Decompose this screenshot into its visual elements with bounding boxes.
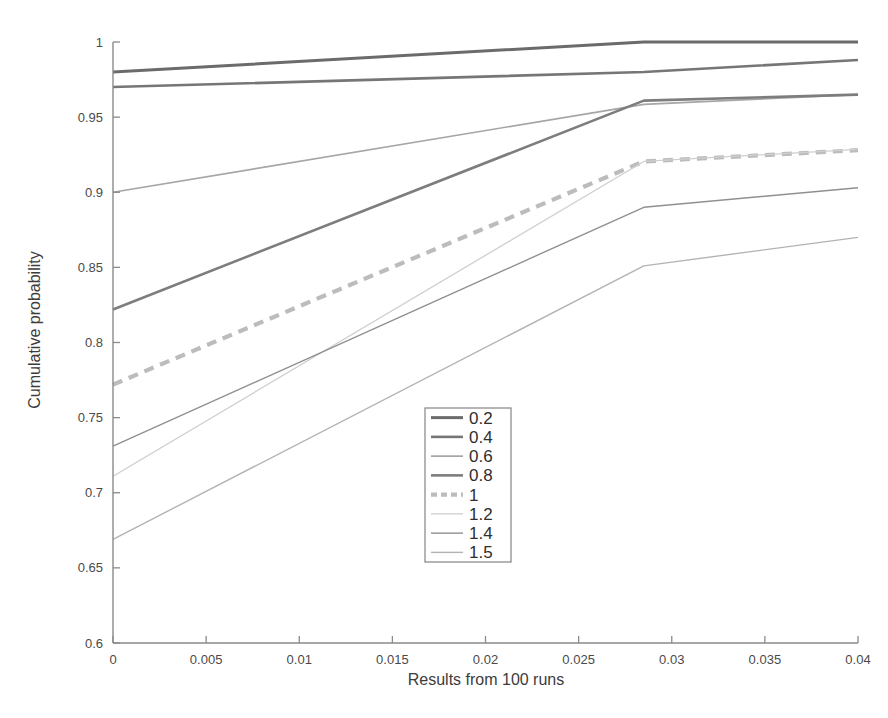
y-tick-label: 0.65	[78, 560, 103, 575]
legend-label-0.8: 0.8	[469, 466, 493, 485]
y-tick-label: 0.6	[85, 636, 103, 651]
series-line-0.4	[113, 60, 858, 87]
x-tick-label: 0.015	[376, 652, 409, 667]
series-line-0.8	[113, 95, 858, 310]
legend-label-1.2: 1.2	[469, 505, 493, 524]
x-tick-label: 0	[109, 652, 116, 667]
x-tick-label: 0.005	[190, 652, 223, 667]
legend-label-1: 1	[469, 486, 478, 505]
legend-label-0.2: 0.2	[469, 409, 493, 428]
y-tick-label: 0.9	[85, 185, 103, 200]
y-tick-label: 0.8	[85, 335, 103, 350]
y-tick-label: 1	[96, 35, 103, 50]
x-tick-label: 0.04	[845, 652, 870, 667]
legend-label-1.5: 1.5	[469, 543, 493, 562]
series-line-1	[113, 150, 858, 384]
x-axis-label: Results from 100 runs	[408, 671, 565, 688]
y-tick-label: 0.75	[78, 410, 103, 425]
legend-label-0.6: 0.6	[469, 447, 493, 466]
legend[interactable]: 0.20.40.60.811.21.41.5	[425, 408, 511, 562]
chart-figure: 0.60.650.70.750.80.850.90.95100.0050.010…	[0, 0, 888, 718]
x-tick-label: 0.025	[562, 652, 595, 667]
cumulative-probability-line-chart: 0.60.650.70.750.80.850.90.95100.0050.010…	[0, 0, 888, 718]
x-tick-label: 0.01	[287, 652, 312, 667]
series-line-0.6	[113, 95, 858, 193]
legend-label-0.4: 0.4	[469, 428, 493, 447]
x-tick-label: 0.02	[473, 652, 498, 667]
y-tick-label: 0.95	[78, 110, 103, 125]
y-axis-label: Cumulative probability	[26, 251, 43, 408]
x-tick-label: 0.035	[749, 652, 782, 667]
y-tick-label: 0.85	[78, 260, 103, 275]
y-tick-label: 0.7	[85, 485, 103, 500]
legend-box	[425, 408, 511, 562]
x-tick-label: 0.03	[659, 652, 684, 667]
legend-label-1.4: 1.4	[469, 524, 493, 543]
